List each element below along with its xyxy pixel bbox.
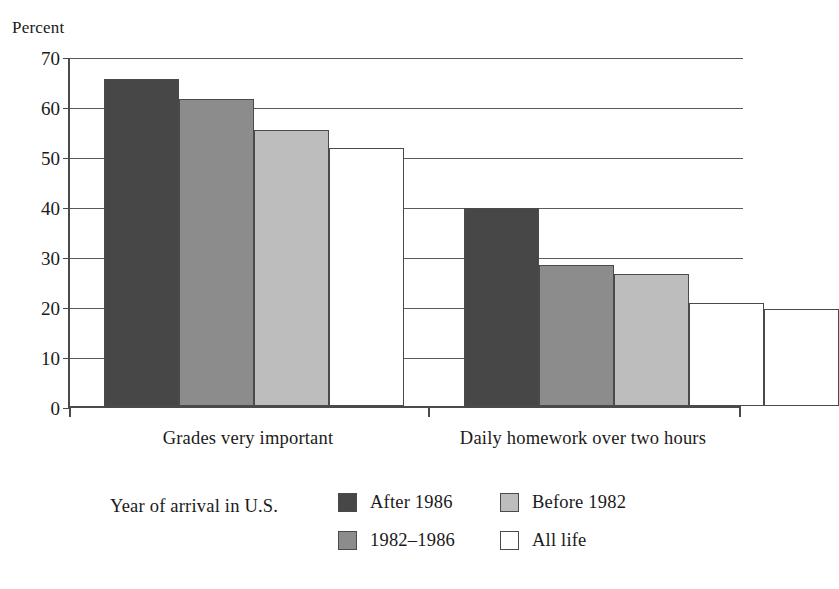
bar-g1-before-1982 (254, 130, 329, 407)
category-label-2: Daily homework over two hours (403, 428, 763, 449)
bar-g2-1982-1986 (539, 265, 614, 406)
legend-swatch-icon (338, 531, 357, 550)
y-tick-mark-40 (63, 208, 70, 209)
gridline-70 (70, 58, 743, 59)
bar-g2-after-1986 (464, 208, 539, 407)
bar-g1-1982-1986 (179, 99, 254, 407)
y-axis-tick-labels: 706050403020100 (16, 58, 60, 408)
legend-label: Before 1982 (532, 492, 626, 513)
legend-entry-after-1986: After 1986 (338, 492, 453, 513)
y-tick-label-70: 70 (41, 49, 60, 68)
legend-swatch-icon (500, 493, 519, 512)
legend-label: 1982–1986 (370, 530, 455, 551)
legend-title: Year of arrival in U.S. (110, 496, 278, 517)
legend-entry-all-life: All life (500, 530, 587, 551)
legend-swatch-icon (338, 493, 357, 512)
legend-label: After 1986 (370, 492, 453, 513)
bar-g1-after-1986 (104, 79, 179, 407)
y-tick-mark-60 (63, 108, 70, 109)
y-tick-mark-30 (63, 258, 70, 259)
legend-swatch-icon (500, 531, 519, 550)
y-tick-label-30: 30 (41, 249, 60, 268)
legend-label: All life (532, 530, 587, 551)
y-tick-mark-20 (63, 308, 70, 309)
bar-g2-all-life-extra (764, 309, 839, 406)
y-tick-mark-70 (63, 58, 70, 59)
y-tick-label-0: 0 (51, 399, 61, 418)
plot-area (68, 58, 741, 408)
y-tick-mark-10 (63, 358, 70, 359)
y-tick-label-50: 50 (41, 149, 60, 168)
y-tick-label-20: 20 (41, 299, 60, 318)
category-axis-tick-3 (739, 408, 741, 417)
category-axis-tick-1 (69, 408, 71, 417)
bar-g2-before-1982 (614, 274, 689, 407)
category-label-1: Grades very important (68, 428, 428, 449)
y-tick-label-60: 60 (41, 99, 60, 118)
legend-entry-1982-1986: 1982–1986 (338, 530, 455, 551)
y-axis-title: Percent (12, 18, 64, 38)
y-tick-label-10: 10 (41, 349, 60, 368)
y-tick-mark-50 (63, 158, 70, 159)
legend-entry-before-1982: Before 1982 (500, 492, 626, 513)
y-tick-label-40: 40 (41, 199, 60, 218)
chart-legend: Year of arrival in U.S. After 1986Before… (110, 492, 670, 572)
bar-g2-all-life (689, 303, 764, 407)
category-axis-tick-2 (428, 408, 430, 417)
bar-g1-all-life (329, 148, 404, 406)
